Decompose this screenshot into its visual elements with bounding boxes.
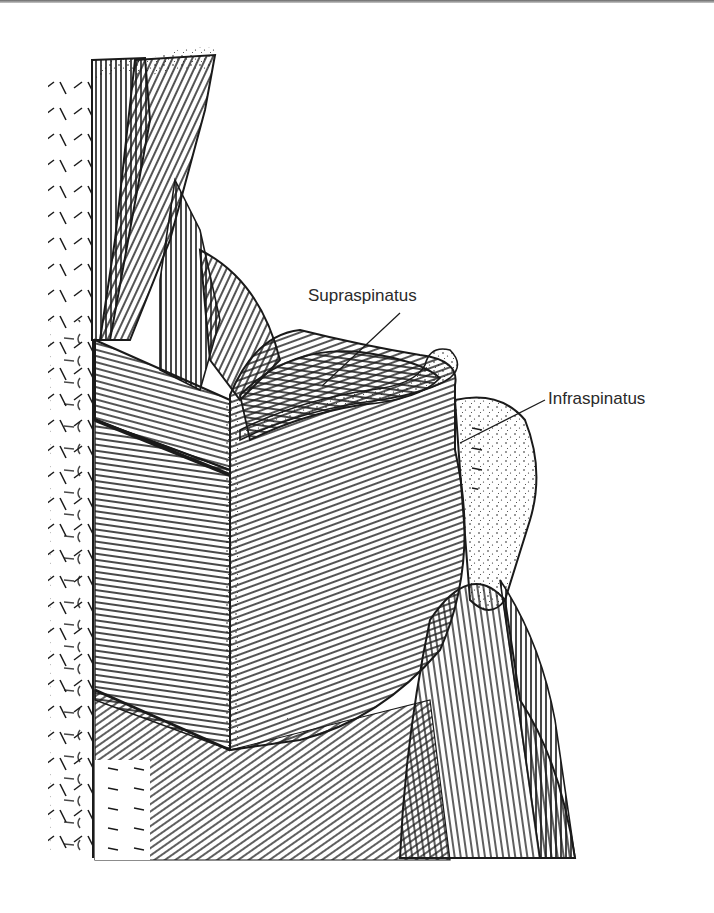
skin-texture xyxy=(48,80,92,860)
rhomboid-block xyxy=(95,340,230,750)
shoulder-anatomy-illustration xyxy=(0,0,714,913)
upper-muscle-group xyxy=(92,48,280,400)
humeral-head xyxy=(455,398,536,611)
supraspinatus-label: Supraspinatus xyxy=(308,287,417,304)
infraspinatus-label: Infraspinatus xyxy=(548,390,645,407)
